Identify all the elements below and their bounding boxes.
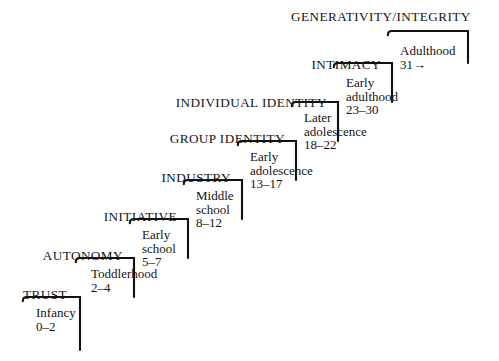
period-label: Infancy0–2 bbox=[36, 306, 76, 333]
period-ages: 0–2 bbox=[36, 320, 76, 334]
period-ages: 23–30 bbox=[346, 103, 398, 117]
stage-name: GROUP IDENTITY bbox=[0, 132, 292, 145]
period-label: Toddlerhood2–4 bbox=[91, 267, 157, 294]
stage-name: AUTONOMY bbox=[0, 249, 130, 262]
period-name: Middleschool bbox=[196, 189, 234, 216]
stage-name: INITIATIVE bbox=[0, 210, 184, 223]
period-label: Earlyadulthood23–30 bbox=[346, 76, 398, 117]
period-name: Toddlerhood bbox=[91, 267, 157, 281]
stage-name: INTIMACY bbox=[0, 58, 388, 71]
top-stage-label: GENERATIVITY/INTEGRITY bbox=[291, 10, 471, 23]
period-ages: 13–17 bbox=[250, 177, 313, 191]
stage-name: TRUST bbox=[0, 288, 74, 301]
period-ages: 5–7 bbox=[142, 255, 176, 269]
period-label: Earlyschool5–7 bbox=[142, 228, 176, 269]
period-ages: 31→ bbox=[400, 58, 456, 72]
period-label: Earlyadolescence13–17 bbox=[250, 150, 313, 191]
period-name: Infancy bbox=[36, 306, 76, 320]
period-ages: 2–4 bbox=[91, 281, 157, 295]
period-label: Middleschool8–12 bbox=[196, 189, 234, 230]
period-name: Earlyschool bbox=[142, 228, 176, 255]
period-name: Earlyadulthood bbox=[346, 76, 398, 103]
period-label: Adulthood31→ bbox=[400, 44, 456, 71]
period-name: Earlyadolescence bbox=[250, 150, 313, 177]
period-name: Adulthood bbox=[400, 44, 456, 58]
stage-name: INDIVIDUAL IDENTITY bbox=[0, 96, 334, 109]
period-label: Lateradolescence18–22 bbox=[304, 111, 367, 152]
stage-name: INDUSTRY bbox=[0, 171, 238, 184]
period-ages: 18–22 bbox=[304, 138, 367, 152]
erikson-stages-diagram: GENERATIVITY/INTEGRITY TRUSTInfancy0–2AU… bbox=[0, 0, 499, 361]
period-ages: 8–12 bbox=[196, 216, 234, 230]
